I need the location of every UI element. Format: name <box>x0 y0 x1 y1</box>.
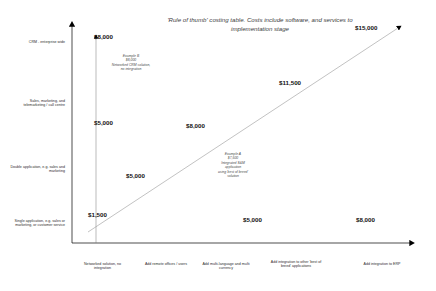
y-axis-label-sales-marketing-telemarketing: Sales, marketing, and telemarketing / ca… <box>8 99 65 108</box>
chart-canvas: 'Rule of thumb' costing table. Costs inc… <box>0 0 436 291</box>
value-label-mid-left: $5,000 <box>94 119 113 127</box>
chart-vector-layer <box>0 0 436 291</box>
value-label-top-left: $8,000 <box>94 33 113 41</box>
x-axis-label-add-multi-language: Add multi-language and multi currency <box>198 262 254 271</box>
annotation-example-b-line4: no integration <box>98 67 164 71</box>
x-axis-label-add-integration-best-of-breed: Add integration to other 'best of breed'… <box>268 260 324 269</box>
value-label-bottom-mid: $5,000 <box>243 216 262 224</box>
x-axis-label-add-integration-erp: Add integration to ERP <box>357 262 407 266</box>
y-axis-label-single-application: Single application, e.g. sales or market… <box>8 219 65 228</box>
value-label-bottom-right: $8,000 <box>356 216 375 224</box>
annotation-example-b: Example B $8,000 Networked CRM solution,… <box>98 54 164 72</box>
value-label-center-low: $5,000 <box>126 172 145 180</box>
annotation-example-a-line6: solution <box>203 174 263 178</box>
x-axis-label-networked-solution: Networked solution, no integration <box>75 262 130 271</box>
value-label-top-right: $15,000 <box>355 24 377 32</box>
y-axis-label-double-application: Double application, e.g. sales and marke… <box>8 165 65 174</box>
annotation-example-a: Example A $7,500 Integrated S&M applicat… <box>203 152 263 179</box>
chart-title: 'Rule of thumb' costing table. Costs inc… <box>160 16 360 34</box>
x-axis-label-add-remote-offices: Add remote offices / users <box>143 262 189 266</box>
value-label-upper-right: $11,500 <box>279 79 301 87</box>
value-label-bottom-left: $1,500 <box>88 211 107 219</box>
y-axis-label-crm-enterprise-wide: CRM - enterprise wide <box>8 40 65 44</box>
value-label-center: $8,000 <box>186 122 205 130</box>
